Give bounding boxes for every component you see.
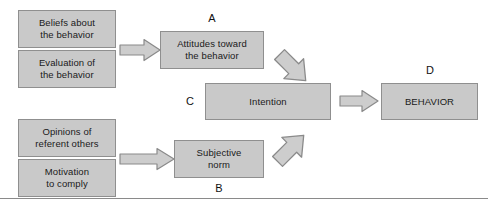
box-subjective-norm-line2: norm [197,159,242,171]
label-b: B [210,182,228,194]
arrow-intention-to-behavior [339,89,379,113]
label-c: C [181,95,199,107]
arrow-attitudes-to-intention [272,47,314,89]
arrow-subjective-norm-to-intention [270,127,312,169]
box-evaluation-line1: Evaluation of [39,57,95,69]
box-opinions-line2: referent others [35,138,98,150]
box-beliefs-line1: Beliefs about [39,17,95,29]
box-behavior-label: BEHAVIOR [405,96,454,108]
box-beliefs: Beliefs about the behavior [18,10,116,48]
box-motivation: Motivation to comply [18,159,116,197]
label-a: A [203,12,221,24]
box-subjective-norm: Subjective norm [174,140,264,178]
box-attitudes-line1: Attitudes toward [177,38,247,50]
box-opinions: Opinions of referent others [18,119,116,157]
diagram-canvas: Beliefs about the behavior Evaluation of… [0,0,488,213]
box-intention-label: Intention [249,96,286,108]
box-motivation-line1: Motivation [45,166,89,178]
box-attitudes: Attitudes toward the behavior [160,31,264,69]
box-attitudes-line2: the behavior [177,50,247,62]
box-motivation-line2: to comply [45,178,89,190]
box-behavior: BEHAVIOR [381,83,478,120]
box-beliefs-line2: the behavior [39,29,95,41]
box-opinions-line1: Opinions of [35,126,98,138]
box-evaluation-line2: the behavior [39,69,95,81]
arrow-opinions-to-subjective-norm [119,147,175,171]
bottom-divider [0,198,488,199]
box-evaluation: Evaluation of the behavior [18,50,116,88]
box-subjective-norm-line1: Subjective [197,147,242,159]
arrow-beliefs-to-attitudes [119,38,161,62]
label-d: D [421,64,439,76]
